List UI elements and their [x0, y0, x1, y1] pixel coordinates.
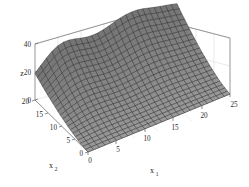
x2-tick-label-0: 0 [79, 150, 83, 158]
x2-tick-label-4: 20 [22, 98, 30, 106]
x2-axis-label-subscript: 2 [55, 166, 58, 172]
x1-tick-label-5: 25 [230, 101, 238, 109]
x1-tick-label-1: 5 [116, 146, 120, 154]
x1-tick-label-0: 0 [88, 157, 92, 165]
plot-canvas: 40 20 0 z 20 15 10 5 0 x 2 0 5 [0, 0, 249, 187]
z-tick-label-1: 20 [24, 69, 32, 77]
x2-axis-label: x [49, 161, 53, 170]
x1-tick-label-4: 20 [200, 112, 208, 120]
x2-tick-label-1: 5 [66, 137, 70, 145]
x2-tick-label-3: 15 [36, 111, 44, 119]
x1-axis-label: x [150, 166, 154, 175]
x1-axis-label-subscript: 1 [156, 171, 159, 177]
surface-plot-figure: 40 20 0 z 20 15 10 5 0 x 2 0 5 [0, 0, 249, 187]
z-axis-label: z [20, 69, 24, 78]
z-tick-label-2: 40 [24, 41, 32, 49]
mesh-surface [35, 4, 230, 152]
x2-tick-label-2: 10 [50, 124, 58, 132]
x1-tick-label-2: 10 [143, 135, 151, 143]
x1-tick-label-3: 15 [171, 124, 179, 132]
